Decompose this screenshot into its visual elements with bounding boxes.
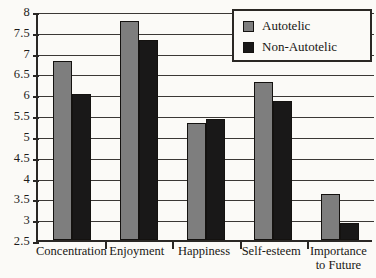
y-tick-label: 3 — [0, 213, 30, 228]
legend-item-non-autotelic: Non-Autotelic — [243, 39, 337, 55]
chart-figure: 87.576.565.554.543.532.5 ConcentrationEn… — [0, 0, 376, 278]
y-tick-label: 6.5 — [0, 67, 30, 82]
x-axis-label: Happiness — [170, 244, 237, 258]
y-tick-label: 5.5 — [0, 109, 30, 124]
y-tick-label: 6 — [0, 88, 30, 103]
y-tick-label: 7.5 — [0, 26, 30, 41]
legend-label-non-autotelic: Non-Autotelic — [262, 39, 337, 55]
bar — [340, 223, 359, 240]
legend-swatch-non-autotelic — [243, 42, 254, 53]
x-axis-label-line: Happiness — [178, 244, 230, 258]
y-tick-mark — [33, 221, 39, 223]
bar — [72, 94, 91, 240]
y-tick-label: 5 — [0, 130, 30, 145]
y-tick-label: 2.5 — [0, 234, 30, 249]
x-axis-label: Concentration — [36, 244, 103, 258]
bar-group — [53, 11, 91, 240]
bar-group — [120, 11, 158, 240]
x-axis-label-line: to Future — [305, 258, 372, 272]
y-tick-label: 4.5 — [0, 151, 30, 166]
y-tick-mark — [33, 75, 39, 77]
y-tick-mark — [33, 159, 39, 161]
y-tick-label: 8 — [0, 5, 30, 20]
y-tick-mark — [33, 13, 39, 15]
y-tick-mark — [33, 34, 39, 36]
y-tick-mark — [33, 117, 39, 119]
bar — [187, 123, 206, 240]
bar — [53, 61, 72, 240]
x-axis-label: Self-esteem — [238, 244, 305, 258]
chart-legend: Autotelic Non-Autotelic — [232, 9, 372, 62]
y-tick-mark — [33, 55, 39, 57]
x-axis-label: Enjoyment — [103, 244, 170, 258]
x-axis-label-line: Self-esteem — [242, 244, 301, 258]
bar — [321, 194, 340, 240]
y-tick-mark — [33, 138, 39, 140]
bar — [120, 21, 139, 240]
x-axis-label-line: Enjoyment — [109, 244, 164, 258]
y-tick-mark — [33, 200, 39, 202]
x-axis-label-line: Concentration — [36, 244, 107, 258]
x-axis-label-line: Importance — [310, 244, 367, 258]
bar — [254, 82, 273, 240]
x-axis-label: Importanceto Future — [305, 244, 372, 272]
bar — [139, 40, 158, 240]
legend-item-autotelic: Autotelic — [243, 18, 310, 34]
y-tick-mark — [33, 96, 39, 98]
bar-group — [187, 11, 225, 240]
bar — [273, 101, 292, 240]
legend-label-autotelic: Autotelic — [262, 18, 310, 34]
y-tick-label: 3.5 — [0, 192, 30, 207]
bar — [206, 119, 225, 240]
y-tick-label: 4 — [0, 172, 30, 187]
legend-swatch-autotelic — [243, 21, 254, 32]
y-tick-label: 7 — [0, 47, 30, 62]
y-tick-mark — [33, 180, 39, 182]
